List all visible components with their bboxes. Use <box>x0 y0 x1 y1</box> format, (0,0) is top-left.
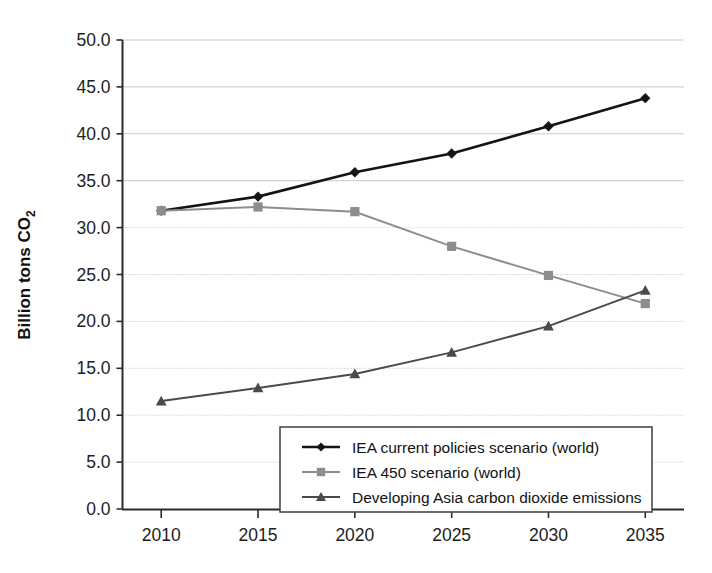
square-marker-icon <box>253 202 262 211</box>
legend-label-2: IEA 450 scenario (world) <box>352 464 521 481</box>
x-tick-label: 2020 <box>335 525 374 545</box>
y-tick-label: 10.0 <box>76 405 110 425</box>
square-marker-icon <box>350 207 359 216</box>
x-tick-label: 2025 <box>432 525 471 545</box>
y-tick-label: 0.0 <box>86 499 111 519</box>
legend-label-3: Developing Asia carbon dioxide emissions <box>352 489 642 506</box>
y-tick-label: 35.0 <box>76 171 110 191</box>
y-tick-label: 30.0 <box>76 218 110 238</box>
square-marker-icon <box>157 206 166 215</box>
chart-container: 0.05.010.015.020.025.030.035.040.045.050… <box>0 0 712 573</box>
x-tick-label: 2030 <box>529 525 568 545</box>
y-tick-label: 50.0 <box>76 30 110 50</box>
x-tick-label: 2015 <box>239 525 278 545</box>
y-tick-label: 25.0 <box>76 265 110 285</box>
x-tick-label: 2035 <box>626 525 665 545</box>
y-tick-label: 20.0 <box>76 311 110 331</box>
square-marker-icon <box>447 242 456 251</box>
y-tick-label: 40.0 <box>76 124 110 144</box>
x-tick-label: 2010 <box>142 525 181 545</box>
y-tick-label: 45.0 <box>76 77 110 97</box>
y-axis-title-main: Billion tons CO <box>15 217 34 340</box>
line-chart: 0.05.010.015.020.025.030.035.040.045.050… <box>0 0 712 573</box>
square-marker-icon <box>544 271 553 280</box>
square-marker-icon <box>641 299 650 308</box>
y-tick-label: 15.0 <box>76 358 110 378</box>
legend-square-marker-icon <box>317 468 325 476</box>
chart-legend: IEA current policies scenario (world)IEA… <box>280 427 652 512</box>
y-axis-title-subscript: 2 <box>24 210 38 217</box>
y-tick-label: 5.0 <box>86 452 111 472</box>
legend-label-1: IEA current policies scenario (world) <box>352 439 599 456</box>
